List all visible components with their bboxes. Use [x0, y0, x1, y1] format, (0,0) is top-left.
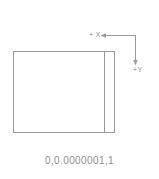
x-axis-arrowhead-icon — [101, 33, 107, 37]
y-axis-arrowhead-icon — [133, 60, 137, 66]
drawing-canvas: + X +Y 0,0.0000001,1 — [0, 0, 159, 179]
technical-drawing — [0, 0, 159, 179]
y-axis-label: +Y — [133, 66, 142, 73]
rectangle-outline — [14, 52, 115, 133]
coordinate-caption: 0,0.0000001,1 — [0, 155, 159, 167]
x-axis-label: + X — [89, 31, 101, 38]
